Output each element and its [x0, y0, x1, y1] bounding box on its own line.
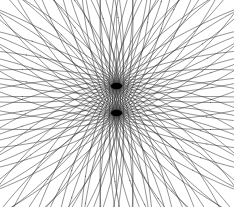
figure-root	[0, 0, 234, 207]
lower-convergence-node	[111, 110, 122, 117]
rosette-svg	[0, 0, 234, 207]
upper-convergence-node	[111, 83, 122, 90]
